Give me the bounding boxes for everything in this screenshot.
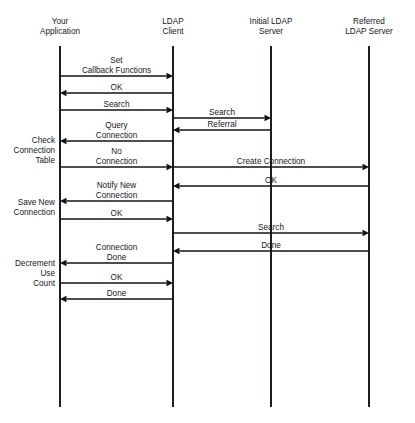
message-label: Search	[258, 223, 284, 232]
message-label: Connection	[96, 131, 138, 140]
arrow-head-icon	[167, 280, 174, 286]
arrow-head-icon	[60, 90, 67, 96]
side-note-n3: Decrement	[15, 259, 56, 268]
message-m16: Done	[60, 289, 173, 303]
message-m15: OK	[60, 273, 173, 287]
message-label: Done	[261, 241, 281, 250]
message-m7: NoConnection	[60, 147, 173, 170]
message-m6: QueryConnection	[60, 121, 173, 144]
lifeline-header-referred: LDAP Server	[345, 27, 393, 36]
message-label: Connection	[96, 243, 138, 252]
arrow-head-icon	[167, 107, 174, 113]
message-label: Done	[107, 289, 127, 298]
arrow-head-icon	[60, 198, 67, 204]
lifeline-header-client: Client	[163, 27, 185, 36]
arrow-head-icon	[363, 164, 370, 170]
lifeline-header-initial: Initial LDAP	[250, 17, 293, 26]
messages-group: SetCallback FunctionsOKSearchSearchRefer…	[60, 56, 369, 302]
message-m1: SetCallback Functions	[60, 56, 173, 79]
side-note-n1: Table	[35, 156, 55, 165]
arrow-head-icon	[167, 216, 174, 222]
message-label: Set	[110, 56, 123, 65]
lifeline-header-app: Application	[40, 27, 81, 36]
sequence-diagram-canvas: YourApplicationLDAPClientInitial LDAPSer…	[0, 0, 415, 423]
arrow-head-icon	[60, 296, 67, 302]
message-label: Callback Functions	[82, 66, 151, 75]
message-label: Search	[209, 108, 235, 117]
side-notes-group: CheckConnectionTableSave NewConnectionDe…	[14, 136, 56, 288]
arrow-head-icon	[265, 115, 272, 121]
message-label: Done	[107, 253, 127, 262]
side-note-n2: Connection	[14, 208, 56, 217]
arrow-head-icon	[363, 230, 370, 236]
message-m5: Referral	[173, 120, 271, 134]
side-note-n3: Count	[33, 279, 56, 288]
lifeline-headers-group: YourApplicationLDAPClientInitial LDAPSer…	[40, 17, 393, 36]
side-note-n2: Save New	[18, 198, 55, 207]
message-m2: OK	[60, 83, 173, 97]
lifeline-header-initial: Server	[259, 27, 283, 36]
side-note-n1: Connection	[14, 146, 56, 155]
side-note-n3: Use	[40, 269, 55, 278]
arrow-head-icon	[167, 164, 174, 170]
message-label: OK	[111, 273, 123, 282]
message-label: Referral	[207, 120, 236, 129]
message-label: Create Connection	[237, 157, 306, 166]
arrow-head-icon	[60, 138, 67, 144]
side-note-n1: Check	[32, 136, 56, 145]
arrow-head-icon	[173, 248, 180, 254]
message-label: OK	[265, 176, 277, 185]
message-label: Connection	[96, 157, 138, 166]
message-label: Notify New	[97, 181, 137, 190]
message-m11: OK	[60, 209, 173, 223]
message-label: OK	[111, 83, 123, 92]
lifeline-header-client: LDAP	[162, 17, 184, 26]
arrow-head-icon	[173, 127, 180, 133]
lifeline-header-app: Your	[52, 17, 69, 26]
message-label: Connection	[96, 191, 138, 200]
message-label: OK	[111, 209, 123, 218]
message-label: No	[111, 147, 122, 156]
arrow-head-icon	[173, 183, 180, 189]
arrow-head-icon	[167, 73, 174, 79]
message-m3: Search	[60, 100, 173, 114]
arrow-head-icon	[60, 260, 67, 266]
message-label: Query	[105, 121, 128, 130]
message-m10: Notify NewConnection	[60, 181, 173, 204]
lifeline-header-referred: Referred	[353, 17, 385, 26]
sequence-diagram: YourApplicationLDAPClientInitial LDAPSer…	[0, 0, 415, 423]
message-m14: ConnectionDone	[60, 243, 173, 266]
message-label: Search	[104, 100, 130, 109]
